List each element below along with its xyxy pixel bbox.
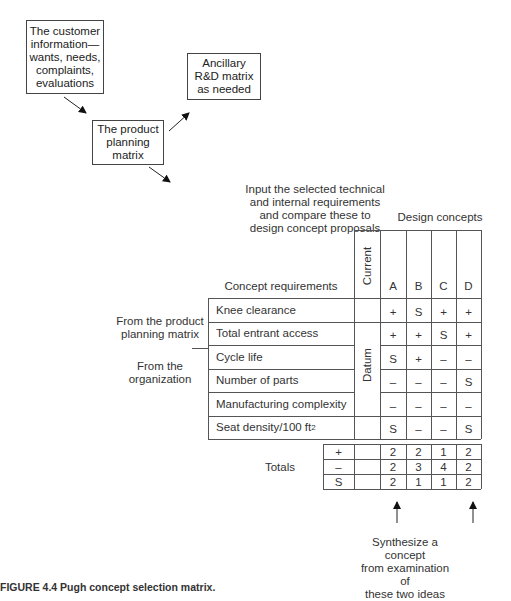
rating-cell: – — [406, 373, 431, 393]
arrow-customer-to-planning — [64, 97, 86, 113]
totals-cell: 2 — [456, 444, 481, 459]
requirement-label-text: Total entrant access — [216, 327, 318, 339]
totals-cell: 2 — [380, 444, 406, 459]
synthesize-line: Synthesize a concept — [355, 536, 455, 562]
rating-cell: + — [456, 326, 481, 346]
totals-cell: 2 — [380, 474, 406, 489]
rating-cell: – — [380, 396, 406, 416]
grid-line — [323, 444, 324, 489]
requirement-label-text: Seat density/100 ft — [216, 421, 311, 433]
rating-cell: + — [380, 302, 406, 322]
arrow-planning-to-input — [149, 167, 170, 182]
totals-cell: 4 — [431, 459, 456, 474]
grid-line — [380, 416, 481, 417]
grid-line — [354, 230, 355, 439]
requirement-row-label: Knee clearance — [208, 298, 354, 322]
concept-header-a: A — [380, 276, 406, 296]
rating-cell: – — [456, 349, 481, 369]
from-organization-label: From the organization — [110, 360, 210, 386]
figure-caption: FIGURE 4.4 Pugh concept selection matrix… — [0, 581, 260, 594]
totals-cell: 1 — [406, 474, 431, 489]
totals-symbol: – — [323, 459, 354, 474]
grid-line — [354, 322, 380, 323]
grid-line — [481, 230, 482, 439]
grid-line — [431, 444, 432, 489]
totals-cell: 2 — [380, 459, 406, 474]
from-product-planning-label: From the product planning matrix — [110, 315, 210, 341]
rating-cell: S — [380, 349, 406, 369]
side-divider — [192, 348, 208, 349]
concept-header-b: B — [406, 276, 431, 296]
rating-cell: S — [406, 302, 431, 322]
side-label-line: organization — [110, 373, 210, 386]
rating-cell: – — [380, 373, 406, 393]
grid-line — [380, 369, 481, 370]
concept-requirements-header: Concept requirements — [208, 276, 354, 296]
grid-line — [354, 416, 380, 417]
requirement-row-label: Cycle life — [208, 345, 354, 369]
rating-cell: + — [406, 349, 431, 369]
rating-cell: – — [456, 396, 481, 416]
rating-cell: – — [431, 349, 456, 369]
side-label-line: From the product — [110, 315, 210, 328]
rating-cell: + — [456, 302, 481, 322]
design-concepts-title: Design concepts — [380, 211, 500, 224]
rating-cell: + — [380, 326, 406, 346]
requirement-row-label: Total entrant access — [208, 322, 354, 346]
superscript: 2 — [311, 423, 315, 432]
grid-line — [354, 230, 481, 231]
totals-symbol: + — [323, 444, 354, 459]
current-header: Current — [361, 241, 373, 291]
requirement-label-text: Number of parts — [216, 374, 298, 386]
rating-cell: – — [406, 396, 431, 416]
rating-cell: – — [406, 420, 431, 440]
grid-line — [354, 444, 355, 489]
totals-cell: 2 — [456, 459, 481, 474]
rating-cell: + — [406, 326, 431, 346]
requirement-row-label: Manufacturing complexity — [208, 392, 354, 416]
concept-header-c: C — [431, 276, 456, 296]
grid-line — [380, 322, 481, 323]
requirement-label-text: Knee clearance — [216, 304, 296, 316]
rating-cell: – — [431, 420, 456, 440]
totals-label: Totals — [240, 444, 320, 489]
rating-cell: – — [431, 396, 456, 416]
rating-cell: S — [456, 420, 481, 440]
grid-line — [380, 444, 381, 489]
totals-cell: 3 — [406, 459, 431, 474]
grid-line — [380, 345, 481, 346]
grid-line — [406, 444, 407, 489]
rating-cell: + — [431, 302, 456, 322]
grid-line — [208, 439, 354, 440]
rating-cell: S — [380, 420, 406, 440]
arrow-planning-to-ancillary — [169, 113, 189, 131]
totals-symbol: S — [323, 474, 354, 489]
synthesize-note: Synthesize a concept from examination of… — [355, 536, 455, 601]
totals-cell: 2 — [406, 444, 431, 459]
grid-line — [456, 444, 457, 489]
requirement-label-text: Cycle life — [216, 351, 263, 363]
totals-cell: 2 — [456, 474, 481, 489]
rating-cell: S — [456, 373, 481, 393]
synthesize-line: from examination of — [355, 562, 455, 588]
grid-line — [380, 392, 481, 393]
datum-label: Datum — [361, 340, 373, 390]
totals-cell: 1 — [431, 444, 456, 459]
requirement-row-label: Number of parts — [208, 369, 354, 393]
synthesize-line: these two ideas — [355, 588, 455, 601]
requirement-label-text: Manufacturing complexity — [216, 398, 346, 410]
concept-header-d: D — [456, 276, 481, 296]
side-label-line: planning matrix — [110, 328, 210, 341]
side-label-line: From the — [110, 360, 210, 373]
totals-cell: 1 — [431, 474, 456, 489]
grid-line — [323, 489, 481, 490]
requirement-row-label: Seat density/100 ft2 — [208, 416, 354, 440]
grid-line — [481, 444, 482, 489]
rating-cell: S — [431, 326, 456, 346]
rating-cell: – — [431, 373, 456, 393]
grid-line — [354, 439, 481, 440]
